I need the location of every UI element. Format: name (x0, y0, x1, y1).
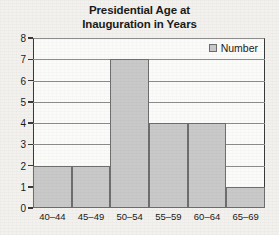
xaxis-tick-label: 60–64 (188, 211, 227, 222)
xaxis-tick-label: 65–69 (226, 211, 265, 222)
bar (110, 59, 149, 208)
legend: Number (206, 41, 261, 55)
bar (72, 166, 111, 209)
bar-slot (149, 38, 188, 208)
chart-title-line-2: Inauguration in Years (0, 17, 279, 31)
yaxis-tick-label: 1 (20, 181, 26, 192)
chart-title-line-1: Presidential Age at (0, 3, 279, 17)
xaxis-tick-label: 55–59 (149, 211, 188, 222)
chart-title: Presidential Age at Inauguration in Year… (0, 3, 279, 31)
bar-slot (188, 38, 227, 208)
legend-label: Number (221, 42, 258, 54)
yaxis-tick-label: 8 (20, 33, 26, 44)
bar-slot (33, 38, 72, 208)
bar-slot (72, 38, 111, 208)
bar-slot (110, 38, 149, 208)
yaxis-tick-label: 3 (20, 139, 26, 150)
bar (149, 123, 188, 208)
xaxis-tick-label: 40–44 (33, 211, 72, 222)
xaxis-labels: 40–4445–4950–5455–5960–6465–69 (33, 211, 265, 222)
bar (33, 166, 72, 209)
yaxis-tick-label: 7 (20, 54, 26, 65)
bar (226, 187, 265, 208)
bar (188, 123, 227, 208)
yaxis-tick-label: 5 (20, 96, 26, 107)
yaxis-tick-label: 2 (20, 160, 26, 171)
bar-series-number (33, 38, 265, 208)
xaxis-tick-label: 45–49 (72, 211, 111, 222)
yaxis-tick-label: 0 (20, 203, 26, 214)
plot-area: 012345678 Number (33, 38, 265, 208)
xaxis-tick-label: 50–54 (110, 211, 149, 222)
legend-swatch-icon (209, 44, 217, 52)
yaxis-tick-label: 4 (20, 118, 26, 129)
yaxis-tick-label: 6 (20, 75, 26, 86)
bar-slot (226, 38, 265, 208)
